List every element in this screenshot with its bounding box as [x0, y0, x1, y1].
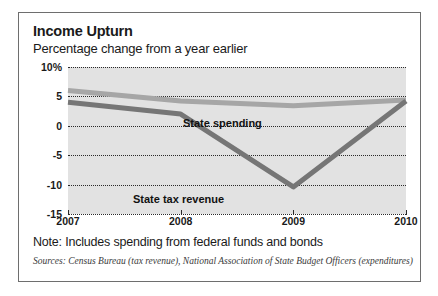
y-axis-tick-label: 0	[56, 120, 62, 132]
series-label-state-tax-revenue: State tax revenue	[133, 193, 224, 205]
series-lines	[68, 67, 406, 214]
x-axis-tick-label: 2008	[169, 215, 192, 227]
line-state-tax-revenue	[68, 101, 406, 187]
y-axis-tick-label: 10%	[41, 61, 62, 73]
chart-subtitle: Percentage change from a year earlier	[33, 41, 247, 56]
chart-title: Income Upturn	[33, 23, 133, 39]
x-axis-tick-mark	[68, 210, 69, 215]
x-axis-tick-label: 2009	[282, 215, 305, 227]
x-axis-tick-mark	[293, 210, 294, 215]
chart-figure: Income Upturn Percentage change from a y…	[18, 12, 421, 282]
y-axis-tick-label: -5	[53, 149, 62, 161]
x-axis: 2007200820092010	[68, 215, 406, 231]
x-axis-tick-label: 2007	[56, 215, 79, 227]
series-label-state-spending: State spending	[183, 117, 262, 129]
plot-area: 10%50-5-10-15 State spending State tax r…	[33, 61, 408, 226]
chart-sources: Sources: Census Bureau (tax revenue), Na…	[33, 256, 413, 266]
x-axis-tick-label: 2010	[394, 215, 417, 227]
chart-note: Note: Includes spending from federal fun…	[33, 235, 323, 249]
y-axis-tick-label: -10	[47, 179, 62, 191]
y-axis: 10%50-5-10-15	[33, 61, 65, 221]
x-axis-tick-mark	[406, 210, 407, 215]
line-state-spending	[68, 91, 406, 106]
x-axis-tick-mark	[181, 210, 182, 215]
y-axis-tick-label: 5	[56, 90, 62, 102]
